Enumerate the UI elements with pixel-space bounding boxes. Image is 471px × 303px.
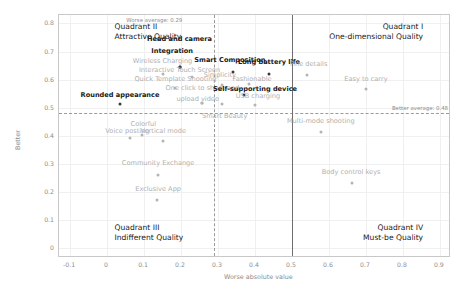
y-tick-label: 0.3 <box>34 159 54 166</box>
gridline-horizontal-3 <box>59 164 449 165</box>
data-point-label: Easy to carry <box>344 76 387 84</box>
data-point-label: Fashionable <box>233 76 272 84</box>
data-point-label: Rounded appearance <box>81 92 160 100</box>
data-point[interactable] <box>319 131 322 134</box>
x-tick-label: 0.8 <box>397 261 407 268</box>
data-point-label: upload video <box>176 96 219 104</box>
x-tick-label: 0 <box>104 261 108 268</box>
x-tick-label: 0.9 <box>434 261 444 268</box>
data-point-label: Community Exchange <box>122 160 194 168</box>
data-point-label: Multi-mode shooting <box>287 118 355 126</box>
data-point-label: Smart Beauty <box>202 113 247 121</box>
gridline-horizontal-7 <box>59 52 449 53</box>
x-tick-label: 0.1 <box>138 261 148 268</box>
x-tick-label: -0.1 <box>63 261 75 268</box>
x-tick-label: 0.3 <box>212 261 222 268</box>
x-tick-label: 0.7 <box>360 261 370 268</box>
data-point-label: USB charging <box>236 93 280 101</box>
quadrant-2-title: Quadrant II <box>114 22 181 31</box>
x-axis-title: Worse absolute value <box>224 273 293 281</box>
y-tick-label: 0.1 <box>34 216 54 223</box>
gridline-horizontal-2 <box>59 192 449 193</box>
y-tick-label: 0.7 <box>34 47 54 54</box>
y-tick-label: 0.4 <box>34 131 54 138</box>
x-tick-label: 0.4 <box>249 261 259 268</box>
data-point-label: Fine details <box>290 61 327 69</box>
y-tick-label: 0 <box>34 244 54 251</box>
data-point-label: Integration <box>151 48 193 56</box>
better-average-label: Better average: 0.48 <box>392 105 448 111</box>
data-point[interactable] <box>156 198 159 201</box>
worse-average-line <box>214 15 215 256</box>
quadrant-1-caption: Quadrant IOne-dimensional Quality <box>329 22 423 41</box>
x-tick-label: 0.2 <box>175 261 185 268</box>
y-tick-label: 0.2 <box>34 187 54 194</box>
quadrant-1-subtitle: One-dimensional Quality <box>329 32 423 41</box>
quadrant-2-subtitle: Attractive Quality <box>114 32 181 41</box>
quadrant-2-caption: Quadrant IIAttractive Quality <box>114 22 181 41</box>
data-point[interactable] <box>157 173 160 176</box>
data-point-label: Quick Template Shooting <box>134 76 216 84</box>
data-point[interactable] <box>305 74 308 77</box>
x-tick-label: 0.5 <box>286 261 296 268</box>
data-point[interactable] <box>350 181 353 184</box>
data-point-label: Body control keys <box>322 169 381 177</box>
gridline-horizontal-5 <box>59 108 449 109</box>
y-axis-title: Better <box>14 130 22 150</box>
quadrant-1-title: Quadrant I <box>329 22 423 31</box>
better-average-line <box>59 113 449 114</box>
quadrant-4-caption: Quadrant IVMust-be Quality <box>363 223 423 242</box>
plot-area: Worse average: 0.29Better average: 0.48 … <box>58 14 450 257</box>
data-point[interactable] <box>119 103 122 106</box>
data-point[interactable] <box>364 88 367 91</box>
gridline-horizontal-0 <box>59 248 449 249</box>
data-point-label: Vertical mode <box>141 128 186 136</box>
gridline-horizontal-1 <box>59 220 449 221</box>
data-point-label: Wireless Charging <box>133 58 193 66</box>
y-tick-label: 0.8 <box>34 19 54 26</box>
data-point-label: Exclusive App <box>135 186 181 194</box>
quadrant-4-title: Quadrant IV <box>363 223 423 232</box>
data-point[interactable] <box>129 137 132 140</box>
quadrant-3-title: Quadrant III <box>114 223 183 232</box>
mid-vertical-line <box>292 15 293 256</box>
data-point[interactable] <box>254 103 257 106</box>
quadrant-3-caption: Quadrant IIIIndifferent Quality <box>114 223 183 242</box>
y-tick-label: 0.6 <box>34 75 54 82</box>
data-point[interactable] <box>161 139 164 142</box>
y-tick-label: 0.5 <box>34 103 54 110</box>
x-tick-label: 0.6 <box>323 261 333 268</box>
chart-canvas: Worse average: 0.29Better average: 0.48 … <box>0 0 471 303</box>
quadrant-4-subtitle: Must-be Quality <box>363 233 423 242</box>
quadrant-3-subtitle: Indifferent Quality <box>114 233 183 242</box>
data-point[interactable] <box>220 103 223 106</box>
